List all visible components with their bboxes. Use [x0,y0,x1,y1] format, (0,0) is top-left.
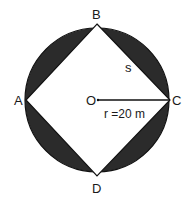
center-label-o: O [86,93,96,108]
vertex-label-a: A [14,93,23,108]
vertex-label-c: C [172,93,181,108]
diagram-canvas: B A C D O s r =20 m [0,0,193,208]
side-label-s: s [125,60,132,75]
vertex-label-d: D [92,181,101,196]
vertex-label-b: B [92,7,101,22]
center-point [97,99,99,101]
radius-label: r =20 m [104,107,145,121]
